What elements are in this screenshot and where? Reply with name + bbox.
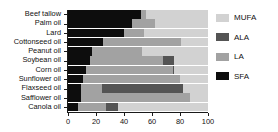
y-axis-tick [64, 79, 67, 80]
legend-item[interactable]: LA [216, 50, 256, 63]
y-tick-label: Flaxseed oil [22, 84, 61, 93]
bar-segment-sfa [68, 66, 86, 75]
x-axis-tick [96, 113, 97, 116]
bar-segment-ala [163, 56, 174, 65]
bar-segment-la [103, 38, 181, 47]
bar-segment-la [81, 93, 190, 102]
bar-segment-la [132, 19, 154, 28]
y-axis-tick [64, 98, 67, 99]
bar-segment-la [78, 103, 106, 112]
x-tick-label: 100 [202, 117, 214, 126]
y-tick-label: Corn oil [36, 66, 61, 75]
bar-segment-mufa [155, 19, 208, 28]
chart-legend: MUFAALALASFA [216, 11, 256, 89]
bar-segment-sfa [68, 47, 92, 56]
bar-segment-ala [106, 103, 119, 112]
bar-segment-la [90, 56, 163, 65]
bar-segment-sfa [68, 103, 78, 112]
bar-row [68, 10, 208, 19]
bar-segment-sfa [68, 10, 141, 19]
plot-area [68, 10, 208, 112]
bar-segment-sfa [68, 38, 103, 47]
bar-row [68, 38, 208, 47]
bar-segment-sfa [68, 29, 124, 38]
y-tick-label: Soybean oil [22, 56, 61, 65]
bar-segment-la [86, 66, 173, 75]
y-axis-tick [64, 33, 67, 34]
bar-segment-mufa [144, 29, 208, 38]
y-tick-label: Canola oil [28, 103, 61, 112]
legend-swatch-sfa [216, 72, 229, 80]
bar-segment-mufa [146, 10, 208, 19]
bar-segment-mufa [118, 103, 208, 112]
x-axis-tick [208, 113, 209, 116]
y-axis-tick [64, 70, 67, 71]
bar-segment-mufa [181, 38, 208, 47]
bar-row [68, 75, 208, 84]
y-tick-label: Palm oil [35, 19, 61, 28]
legend-label: ALA [234, 33, 249, 42]
y-axis-tick [64, 107, 67, 108]
bar-row [68, 29, 208, 38]
legend-label: LA [234, 52, 244, 61]
y-axis-tick [64, 14, 67, 15]
legend-item[interactable]: MUFA [216, 11, 256, 24]
bar-segment-la [92, 47, 142, 56]
y-axis-tick [64, 24, 67, 25]
bar-segment-la [81, 84, 102, 93]
y-axis-tick [64, 42, 67, 43]
y-axis-category-labels: Beef tallowPalm oilLardCottonseed oilPea… [0, 10, 64, 112]
legend-item[interactable]: SFA [216, 70, 256, 83]
bar-row [68, 84, 208, 93]
bar-segment-mufa [174, 66, 208, 75]
x-tick-label: 20 [92, 117, 100, 126]
bar-row [68, 56, 208, 65]
x-tick-label: 0 [66, 117, 70, 126]
bar-segment-sfa [68, 19, 132, 28]
bar-row [68, 66, 208, 75]
bar-segment-sfa [68, 75, 83, 84]
legend-swatch-mufa [216, 14, 229, 22]
bar-segment-mufa [142, 47, 208, 56]
bar-segment-mufa [174, 56, 208, 65]
y-tick-label: Safflower oil [21, 94, 61, 103]
x-tick-label: 40 [120, 117, 128, 126]
bar-segment-sfa [68, 93, 81, 102]
x-tick-label: 60 [148, 117, 156, 126]
bar-row [68, 93, 208, 102]
legend-label: MUFA [234, 13, 256, 22]
x-tick-label: 80 [176, 117, 184, 126]
legend-label: SFA [234, 72, 249, 81]
legend-item[interactable]: ALA [216, 31, 256, 44]
legend-swatch-ala [216, 33, 229, 41]
x-axis-tick [152, 113, 153, 116]
bar-segment-sfa [68, 56, 90, 65]
y-axis-tick [64, 89, 67, 90]
x-axis-tick [68, 113, 69, 116]
bar-row [68, 103, 208, 112]
y-axis-tick [64, 51, 67, 52]
bar-segment-mufa [183, 84, 208, 93]
bar-segment-la [124, 29, 144, 38]
bar-segment-ala [102, 84, 183, 93]
legend-swatch-la [216, 53, 229, 61]
bar-segment-sfa [68, 84, 81, 93]
stacked-bar-chart: Beef tallowPalm oilLardCottonseed oilPea… [0, 0, 278, 132]
bar-segment-mufa [190, 93, 208, 102]
bar-segment-mufa [180, 75, 208, 84]
x-axis-tick [180, 113, 181, 116]
y-tick-label: Lard [46, 29, 61, 38]
bar-row [68, 19, 208, 28]
x-axis-line [68, 112, 208, 113]
bar-segment-la [83, 75, 180, 84]
bar-row [68, 47, 208, 56]
x-axis-tick [124, 113, 125, 116]
y-axis-tick [64, 61, 67, 62]
